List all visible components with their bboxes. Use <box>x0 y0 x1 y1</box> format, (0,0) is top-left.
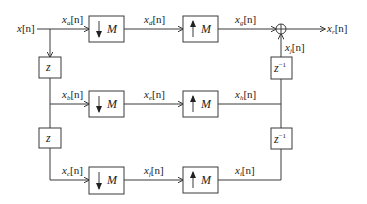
signal-label-xb: xb[n] <box>61 88 83 102</box>
upsample-factor-h: M <box>200 97 212 111</box>
upsample-factor-i: M <box>200 173 212 187</box>
signal-label-xe: xe[n] <box>143 88 165 102</box>
signal-label-xi: xi[n] <box>234 164 255 178</box>
signal-label-xh: xh[n] <box>234 88 256 102</box>
downsample-factor-c: M <box>106 173 118 187</box>
output-signal-label: xr[n] <box>326 22 347 36</box>
delay-z-label-2: z <box>45 131 51 145</box>
polyphase-block-diagram: x[n] xa[n] z z M xd[n] M xg[n] xr[n] xj[… <box>0 0 367 204</box>
delay-z-label-1: z <box>45 60 51 74</box>
input-signal-label: x[n] <box>16 22 35 34</box>
signal-label-xj: xj[n] <box>284 41 305 55</box>
signal-label-xd: xd[n] <box>143 13 165 27</box>
signal-label-xc: xc[n] <box>61 164 83 178</box>
downsample-factor-a: M <box>106 22 118 36</box>
signal-label-xf: xf[n] <box>143 164 164 178</box>
upsample-factor-g: M <box>200 22 212 36</box>
signal-label-xa: xa[n] <box>61 13 83 27</box>
downsample-factor-b: M <box>106 97 118 111</box>
signal-label-xg: xg[n] <box>234 13 256 27</box>
